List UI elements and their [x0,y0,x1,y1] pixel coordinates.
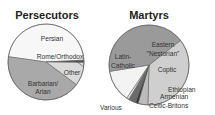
label-latin: Latin- [115,53,132,60]
label-coptic: Coptic [158,66,177,74]
label-arian: Arian [35,88,51,95]
label-various: Various [100,104,123,111]
label-eastern: Eastern [152,41,175,48]
pie-charts: Persecutors Martyrs Persian Rome/Orthodo… [0,0,215,115]
label-armenian: Armenian [160,93,189,100]
label-other: Other [64,69,81,76]
label-celtic-britons: Celtic-Britons [149,102,189,109]
label-rome-orthodox: Rome/Orthodox [37,53,84,60]
label-nestorian: "Nestorian" [147,50,181,57]
persecutors-title: Persecutors [15,9,79,21]
martyrs-title: Martyrs [129,9,169,21]
label-barbarian: Barbarian/ [28,80,59,87]
label-catholic: Catholic [111,62,136,69]
label-persian: Persian [41,35,64,42]
